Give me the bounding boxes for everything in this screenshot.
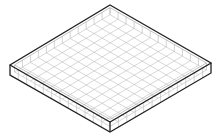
diagram-canvas — [0, 0, 218, 139]
isometric-tray-diagram — [0, 0, 218, 139]
tray-top-face — [10, 5, 211, 122]
